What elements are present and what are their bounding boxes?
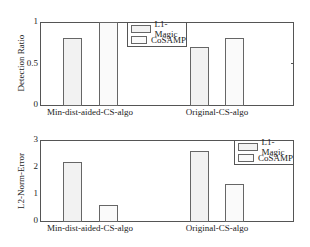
bottom-xtick-original: Original-CS-algo [186, 223, 249, 233]
legend-label: CoSAMP [258, 153, 293, 163]
bottom-y-label: L2-Norm-Error [16, 146, 26, 216]
top-bar-mindist-l1magic [63, 38, 82, 106]
top-bar-original-cosamp [225, 38, 244, 106]
bottom-bar-mindist-l1magic [63, 162, 82, 222]
legend-item-cosamp: CoSAMP [128, 34, 186, 45]
top-bar-original-l1magic [190, 47, 209, 106]
legend-item-l1magic: L1-Magic [128, 23, 186, 34]
bottom-xtick-mindist: Min-dist-aided-CS-algo [47, 223, 133, 233]
top-ytick-0: 0 [24, 99, 38, 109]
top-xtick-mindist: Min-dist-aided-CS-algo [47, 107, 133, 117]
top-bar-mindist-cosamp [99, 22, 118, 106]
top-tick-mark [291, 63, 294, 64]
bottom-ytick-3: 3 [24, 134, 38, 144]
bottom-ytick-2: 2 [24, 161, 38, 171]
bottom-bar-mindist-cosamp [99, 205, 118, 222]
legend-swatch [131, 25, 151, 33]
legend-item-l1magic: L1-Magic [235, 141, 293, 152]
top-ytick-05: 0.5 [24, 58, 38, 68]
top-ytick-1: 1 [24, 16, 38, 26]
bottom-bar-original-cosamp [225, 184, 244, 222]
top-legend: L1-Magic CoSAMP [127, 22, 187, 47]
bottom-bar-original-l1magic [190, 151, 209, 222]
legend-swatch [238, 154, 254, 162]
bottom-ytick-1: 1 [24, 188, 38, 198]
legend-swatch [238, 143, 258, 151]
legend-swatch [131, 36, 147, 44]
legend-label: CoSAMP [151, 35, 186, 45]
top-xtick-original: Original-CS-algo [186, 107, 249, 117]
bottom-ytick-0: 0 [24, 215, 38, 225]
bottom-legend: L1-Magic CoSAMP [234, 140, 294, 165]
legend-item-cosamp: CoSAMP [235, 152, 293, 163]
